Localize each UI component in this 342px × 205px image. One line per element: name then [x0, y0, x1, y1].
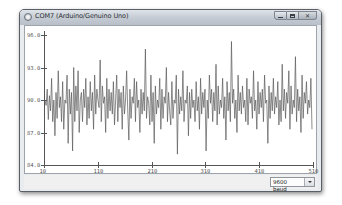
- y-tick-label: 84.0: [27, 163, 40, 169]
- chevron-down-icon: [308, 181, 312, 183]
- y-tick-label: 93.0: [27, 66, 40, 72]
- y-tick-label: 87.0: [27, 131, 40, 137]
- window-controls: ✕: [274, 11, 317, 20]
- close-icon: ✕: [305, 13, 310, 19]
- x-tick-label: 10: [40, 169, 47, 175]
- x-tick-label: 510: [309, 169, 319, 175]
- minimize-button[interactable]: [274, 11, 287, 20]
- x-tick-label: 110: [94, 169, 104, 175]
- x-tick-label: 410: [255, 169, 265, 175]
- app-icon: [24, 13, 32, 21]
- window-title: COM7 (Arduino/Genuino Uno): [35, 12, 128, 20]
- baud-rate-select[interactable]: 9600 baud: [270, 177, 315, 187]
- maximize-icon: [290, 14, 295, 18]
- y-tick-label: 90.0: [27, 98, 40, 104]
- baud-rate-value: 9600 baud: [271, 178, 304, 186]
- minimize-icon: [278, 17, 283, 18]
- maximize-button[interactable]: [287, 11, 299, 20]
- data-series-line: [45, 42, 312, 155]
- dropdown-button[interactable]: [304, 178, 314, 186]
- y-tick-label: 96.0: [27, 33, 40, 39]
- line-chart: [25, 26, 318, 176]
- status-bar: 9600 baud: [24, 175, 317, 189]
- x-tick-label: 310: [201, 169, 211, 175]
- x-tick-label: 210: [148, 169, 158, 175]
- title-bar[interactable]: COM7 (Arduino/Genuino Uno) ✕: [20, 10, 321, 25]
- close-button[interactable]: ✕: [299, 11, 317, 20]
- serial-plotter-window: COM7 (Arduino/Genuino Uno) ✕ 96.093.090.…: [19, 9, 322, 192]
- plot-area: 96.093.090.087.084.0 10110210310410510: [24, 25, 317, 174]
